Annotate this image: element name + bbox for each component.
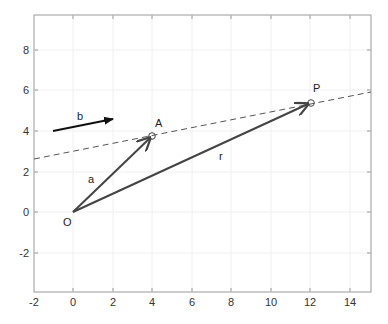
label-o: O <box>63 216 72 228</box>
x-tick-label: 2 <box>110 296 116 308</box>
y-tick-label: 0 <box>23 206 29 218</box>
label-a-point: A <box>155 117 163 129</box>
y-tick-label: 6 <box>23 84 29 96</box>
x-tick-label: 12 <box>304 296 316 308</box>
label-p: P <box>313 82 320 94</box>
y-tick-label: 2 <box>23 166 29 178</box>
x-tick-label: 14 <box>344 296 356 308</box>
vector-plot: -2 0 2 4 6 8 10 12 14 -2 0 2 4 6 8 O A P… <box>0 0 388 324</box>
x-tick-label: -2 <box>29 296 39 308</box>
label-a-vector: a <box>88 173 95 185</box>
y-tick-label: 4 <box>23 125 29 137</box>
label-b: b <box>77 110 83 122</box>
x-tick-labels: -2 0 2 4 6 8 10 12 14 <box>29 296 356 308</box>
y-tick-label: -2 <box>19 247 29 259</box>
x-tick-label: 6 <box>189 296 195 308</box>
y-tick-labels: -2 0 2 4 6 8 <box>19 44 29 259</box>
x-tick-label: 10 <box>265 296 277 308</box>
label-r: r <box>219 150 223 162</box>
x-tick-label: 8 <box>228 296 234 308</box>
y-tick-label: 8 <box>23 44 29 56</box>
x-tick-label: 0 <box>70 296 76 308</box>
x-tick-label: 4 <box>149 296 155 308</box>
